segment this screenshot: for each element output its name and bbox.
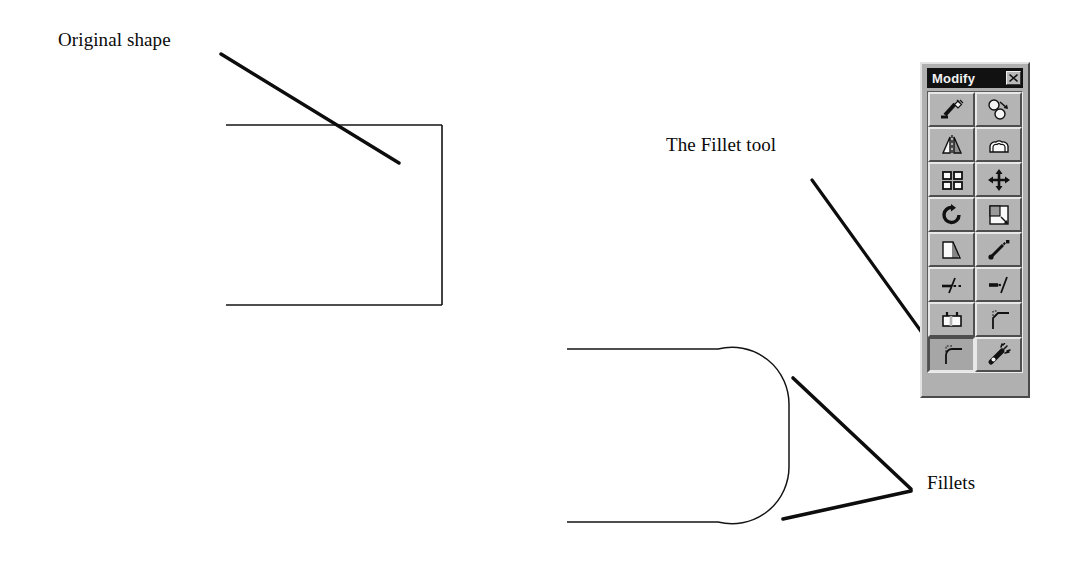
modify-toolbar-titlebar[interactable]: Modify bbox=[927, 68, 1023, 88]
tool-button-offset[interactable] bbox=[975, 127, 1022, 162]
tool-button-fillet[interactable] bbox=[928, 337, 975, 372]
tool-button-mirror[interactable] bbox=[928, 127, 975, 162]
offset-icon bbox=[986, 133, 1012, 157]
modify-toolbar-title: Modify bbox=[932, 72, 975, 85]
fillet-icon bbox=[939, 343, 965, 367]
modify-toolbar[interactable]: Modify bbox=[920, 62, 1030, 398]
leader-line-fillet-upper bbox=[793, 378, 911, 489]
extend-icon bbox=[986, 273, 1012, 297]
move-icon bbox=[986, 168, 1012, 192]
close-icon bbox=[1008, 73, 1019, 83]
tool-button-stretch[interactable] bbox=[928, 232, 975, 267]
trim-icon bbox=[939, 273, 965, 297]
tool-button-scale[interactable] bbox=[975, 197, 1022, 232]
stretch-icon bbox=[939, 238, 965, 262]
tool-button-erase[interactable] bbox=[928, 92, 975, 127]
tool-button-lengthen[interactable] bbox=[975, 232, 1022, 267]
lengthen-icon bbox=[986, 238, 1012, 262]
leader-lines bbox=[221, 54, 946, 519]
close-button[interactable] bbox=[1006, 71, 1021, 85]
scale-icon bbox=[986, 203, 1012, 227]
break-icon bbox=[939, 308, 965, 332]
label-original-shape: Original shape bbox=[58, 29, 171, 51]
explode-icon bbox=[986, 343, 1012, 367]
tool-button-array[interactable] bbox=[928, 162, 975, 197]
tool-button-break[interactable] bbox=[928, 302, 975, 337]
mirror-icon bbox=[939, 133, 965, 157]
copy-icon bbox=[986, 98, 1012, 122]
label-fillets: Fillets bbox=[927, 472, 975, 494]
leader-line-original-shape bbox=[221, 54, 399, 163]
tool-button-move[interactable] bbox=[975, 162, 1022, 197]
chamfer-icon bbox=[986, 308, 1012, 332]
tool-button-extend[interactable] bbox=[975, 267, 1022, 302]
filleted-shape-drawing bbox=[567, 347, 789, 523]
leader-line-fillet-lower bbox=[783, 491, 911, 519]
tool-button-rotate[interactable] bbox=[928, 197, 975, 232]
tool-button-chamfer[interactable] bbox=[975, 302, 1022, 337]
array-icon bbox=[939, 168, 965, 192]
tool-button-trim[interactable] bbox=[928, 267, 975, 302]
original-shape-drawing bbox=[226, 125, 442, 305]
label-fillet-tool: The Fillet tool bbox=[666, 134, 776, 156]
filleted-shape-outline bbox=[567, 347, 789, 523]
erase-icon bbox=[939, 98, 965, 122]
rotate-icon bbox=[939, 203, 965, 227]
tool-button-copy[interactable] bbox=[975, 92, 1022, 127]
modify-tool-button-grid[interactable] bbox=[927, 91, 1023, 373]
tool-button-explode[interactable] bbox=[975, 337, 1022, 372]
